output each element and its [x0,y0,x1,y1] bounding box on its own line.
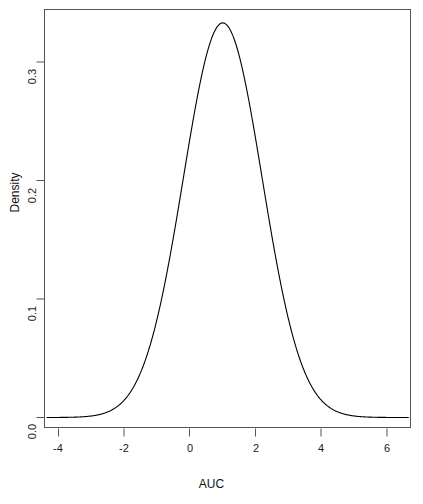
x-tick-label-4: 4 [306,443,336,454]
x-tick-label-2: 0 [175,443,205,454]
x-tick-label-3: 2 [241,443,271,454]
x-axis-title: AUC [0,478,423,491]
y-tick-label-2: 0.2 [27,181,38,211]
chart-title [0,0,423,6]
y-tick-label-3: 0.3 [27,62,38,92]
y-tick-label-1: 0.1 [27,299,38,329]
x-tick-label-0: -4 [43,443,73,454]
y-tick-label-0: 0.0 [27,417,38,447]
x-tick-label-1: -2 [109,443,139,454]
plot-frame [44,9,411,428]
density-plot-figure: -4 -2 0 2 4 6 0.0 0.1 0.2 0.3 AUC Densit… [0,0,423,504]
x-axis-ticks [59,429,388,437]
x-tick-label-5: 6 [372,443,402,454]
y-axis-title: Density [9,163,22,223]
